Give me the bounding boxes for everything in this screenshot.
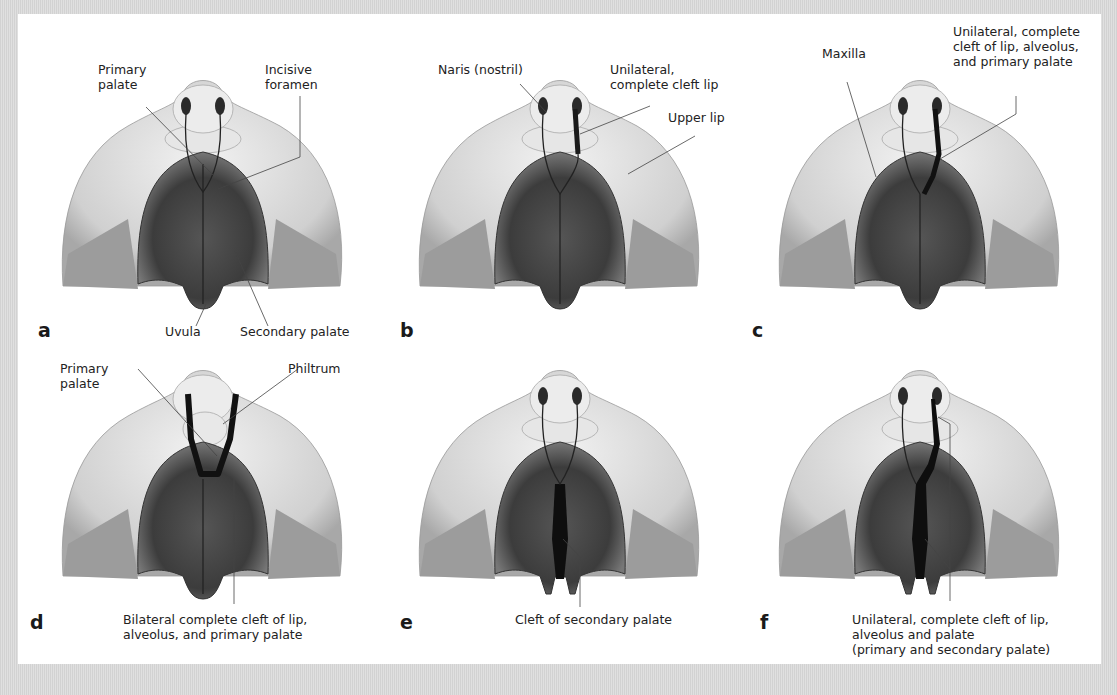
label-unilateral-cleft-lip: Unilateral, complete cleft lip (610, 62, 718, 92)
figure-c: c Maxilla Unilateral, complete cleft of … (740, 14, 1100, 339)
label-primary-palate-d: Primary palate (60, 361, 108, 391)
panel-letter-c: c (752, 319, 763, 341)
figure-a: a Primary palate Incisive foramen Uvula … (18, 14, 378, 339)
figure-b: b Naris (nostril) Unilateral, complete c… (380, 14, 740, 339)
figure-f: f Unilateral, complete cleft of lip, alv… (740, 339, 1100, 664)
label-cleft-secondary: Cleft of secondary palate (515, 612, 672, 627)
label-uvula: Uvula (165, 324, 201, 339)
label-unilateral-cleft-lip-alveolus: Unilateral, complete cleft of lip, alveo… (953, 24, 1080, 69)
label-bilateral-cleft: Bilateral complete cleft of lip, alveolu… (123, 612, 307, 642)
figure-panel: a Primary palate Incisive foramen Uvula … (18, 14, 1101, 664)
figure-d: d Primary palate Philtrum Bilateral comp… (18, 339, 378, 664)
label-unilateral-complete-cleft: Unilateral, complete cleft of lip, alveo… (852, 612, 1050, 657)
panel-letter-a: a (38, 319, 51, 341)
panel-letter-f: f (760, 611, 768, 633)
panel-letter-b: b (400, 319, 414, 341)
label-primary-palate: Primary palate (98, 62, 146, 92)
label-upper-lip: Upper lip (668, 110, 725, 125)
label-secondary-palate: Secondary palate (240, 324, 350, 339)
label-maxilla: Maxilla (822, 46, 866, 61)
label-philtrum: Philtrum (288, 361, 341, 376)
panel-letter-e: e (400, 611, 413, 633)
palate-illustration-normal (18, 14, 378, 339)
label-naris: Naris (nostril) (438, 62, 523, 77)
label-incisive-foramen: Incisive foramen (265, 62, 318, 92)
figure-e: e Cleft of secondary palate (380, 339, 740, 664)
panel-letter-d: d (30, 611, 44, 633)
